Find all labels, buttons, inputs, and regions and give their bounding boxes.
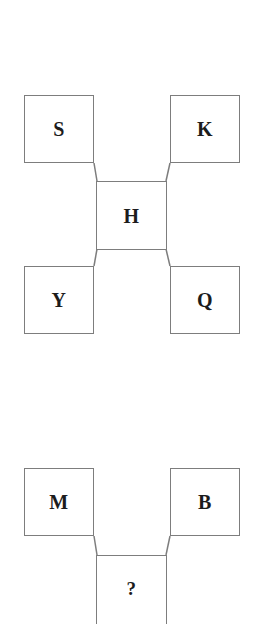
node-label-k: K <box>197 119 213 139</box>
node-label-q: Q <box>197 290 213 310</box>
node-label-b: B <box>198 492 212 512</box>
connector-b-to-unknown <box>166 536 170 555</box>
node-box-unknown: ? <box>96 555 167 624</box>
complete-analogy-figure: S K H Y Q <box>0 0 260 440</box>
node-box-q: Q <box>170 266 240 334</box>
node-label-unknown: ? <box>127 579 137 598</box>
node-box-m: M <box>24 468 94 536</box>
connector-y-to-h <box>94 249 97 266</box>
node-box-h: H <box>96 181 167 250</box>
node-label-m: M <box>49 492 68 512</box>
node-box-b: B <box>170 468 240 536</box>
connector-q-to-h <box>166 249 170 266</box>
node-box-k: K <box>170 95 240 163</box>
node-box-y: Y <box>24 266 94 334</box>
node-box-s: S <box>24 95 94 163</box>
node-label-s: S <box>53 119 65 139</box>
node-label-h: H <box>123 206 139 226</box>
incomplete-analogy-figure: M B ? <box>0 440 260 618</box>
node-label-y: Y <box>52 290 67 310</box>
connector-k-to-h <box>166 163 170 181</box>
connector-s-to-h <box>94 163 97 181</box>
connector-m-to-unknown <box>94 536 97 555</box>
